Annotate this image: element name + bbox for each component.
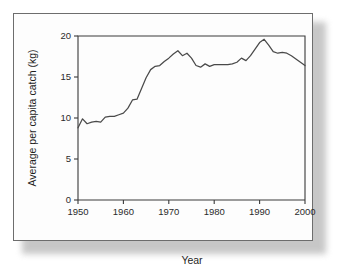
figure-root: 195019601970198019902000 05101520 Year A… [0, 0, 347, 273]
figure-card [13, 13, 313, 241]
x-axis-title: Year [181, 254, 203, 266]
